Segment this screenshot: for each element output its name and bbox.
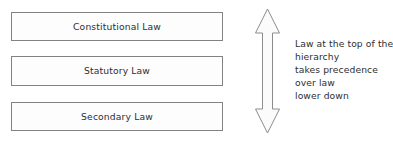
precedence-annotation: Law at the top of the hierarchy takes pr…	[295, 38, 391, 103]
annotation-line: takes precedence	[295, 64, 391, 77]
double-headed-arrow-icon	[254, 8, 281, 134]
annotation-line: lower down	[295, 90, 391, 103]
hierarchy-box-statutory-law[interactable]: Statutory Law	[11, 56, 223, 86]
hierarchy-box-label: Constitutional Law	[73, 22, 161, 31]
hierarchy-box-secondary-law[interactable]: Secondary Law	[11, 102, 223, 131]
annotation-line: hierarchy	[295, 51, 391, 64]
annotation-line: over law	[295, 77, 391, 90]
diagram-canvas: Constitutional Law Statutory Law Seconda…	[0, 0, 393, 142]
hierarchy-box-constitutional-law[interactable]: Constitutional Law	[11, 12, 223, 41]
hierarchy-box-label: Secondary Law	[81, 112, 153, 121]
hierarchy-box-label: Statutory Law	[84, 66, 150, 75]
annotation-line: Law at the top of the	[295, 38, 391, 51]
double-headed-arrow-shape	[254, 8, 281, 134]
